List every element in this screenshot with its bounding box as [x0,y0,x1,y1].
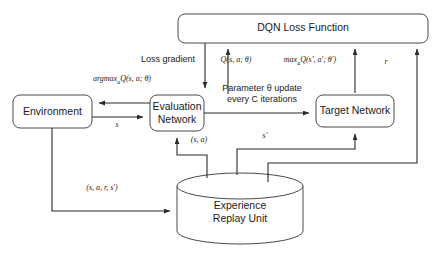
edge-transition-to-replay [52,128,170,211]
edge-label-q-value: Q(s, a; θ) [213,55,259,65]
edge-label-transition: (s, a, r, s′) [72,183,132,193]
edge-label-max-q-target: maxaQ(s′, a′; θ′) [279,55,341,68]
edge-label-next-state: s′ [258,131,272,141]
edge-label-parameter-update: Parameter θ update every C iterations [213,83,311,105]
diagram-vector-layer [0,0,438,256]
edge-next-state-to-target-network [237,134,355,175]
max-q-body: Q(s′, a′; θ′) [300,55,336,64]
edge-label-argmax-q: argmaxaQ(s, a; θ) [76,74,168,87]
argmax-body: Q(s, a; θ) [120,74,151,83]
target-network-box[interactable] [316,95,394,127]
max-q-prefix: max [284,55,297,64]
argmax-prefix: argmax [93,74,117,83]
edge-label-state: s [110,120,124,130]
evaluation-network-box[interactable] [150,95,204,131]
experience-replay-cylinder[interactable] [177,173,303,244]
edge-label-state-action: (s, a) [182,135,216,145]
environment-box[interactable] [13,95,92,128]
dqn-loss-function-box[interactable] [178,14,428,43]
dqn-architecture-diagram: DQN Loss Function Environment Evaluation… [0,0,438,256]
edge-label-loss-gradient: Loss gradient [128,54,208,65]
edge-label-reward: r [379,57,393,67]
